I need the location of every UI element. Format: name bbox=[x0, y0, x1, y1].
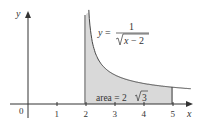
x-axis-arrow-icon bbox=[186, 101, 193, 107]
y-axis-arrow-icon bbox=[25, 11, 31, 18]
chart-figure: y x 0 12345 y = 1 x − 2 area = 2 3 bbox=[0, 0, 203, 133]
x-tick-label: 2 bbox=[84, 109, 89, 119]
y-axis-label: y bbox=[15, 8, 21, 19]
area-label: area = 2 bbox=[96, 93, 127, 103]
x-tick-label: 1 bbox=[55, 109, 60, 119]
x-axis-label: x bbox=[186, 108, 192, 119]
equation-denominator: x − 2 bbox=[123, 35, 144, 46]
x-tick-label: 5 bbox=[171, 109, 176, 119]
x-tick-label: 3 bbox=[113, 109, 118, 119]
equation-numerator: 1 bbox=[129, 21, 134, 32]
plot-area: y x 0 12345 y = 1 x − 2 area = 2 3 bbox=[0, 0, 203, 133]
origin-label: 0 bbox=[19, 106, 24, 116]
equation-lhs: y = bbox=[97, 27, 111, 38]
x-tick-label: 4 bbox=[142, 109, 147, 119]
x-tick-labels: 12345 bbox=[55, 109, 176, 119]
area-radicand: 3 bbox=[142, 93, 147, 103]
